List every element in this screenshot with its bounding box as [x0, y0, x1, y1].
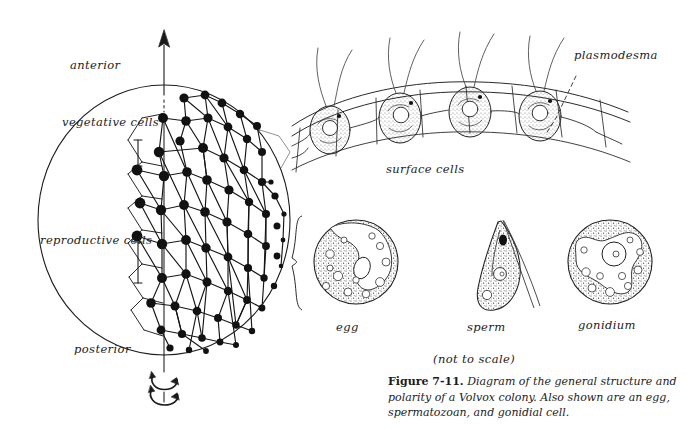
- label-anterior: anterior: [70, 58, 121, 72]
- label-plasmodesma: plasmodesma: [574, 48, 658, 62]
- figure-7-11: anterior vegetative cells reproductive c…: [0, 0, 686, 430]
- grouping-brace: [292, 216, 302, 310]
- cell-connection-lines: [137, 95, 284, 351]
- gonidium-cell: [568, 220, 652, 304]
- sperm-cell: [477, 220, 540, 310]
- surface-cell-4: [519, 36, 564, 141]
- label-vegetative-cells: vegetative cells: [62, 114, 142, 130]
- label-surface-cells: surface cells: [386, 162, 465, 176]
- egg-cell: [314, 220, 398, 304]
- label-reproductive-cells: reproductive cells: [40, 232, 140, 248]
- surface-cell-2: [379, 38, 424, 143]
- surface-cell-1: [310, 48, 352, 154]
- label-posterior: posterior: [74, 342, 131, 356]
- label-egg: egg: [336, 320, 359, 334]
- rotation-arrow-upper: [150, 372, 179, 390]
- label-not-to-scale: (not to scale): [433, 352, 515, 366]
- gamete-cells-diagram: [292, 216, 652, 310]
- figure-caption: Figure 7-11. Diagram of the general stru…: [388, 374, 680, 421]
- label-gonidium: gonidium: [578, 318, 636, 332]
- surface-cell-3: [449, 32, 494, 137]
- figure-number: Figure 7-11.: [388, 375, 464, 388]
- label-sperm: sperm: [467, 320, 505, 334]
